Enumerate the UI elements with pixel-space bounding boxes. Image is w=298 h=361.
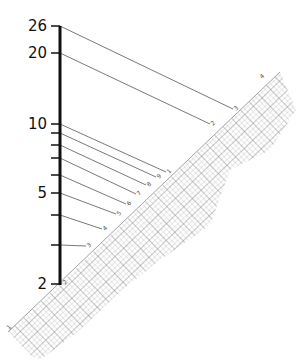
strip-label: 3 bbox=[85, 241, 93, 249]
connector-line bbox=[60, 124, 166, 172]
strip-label: 3 bbox=[232, 104, 240, 112]
vertical-log-axis: 26201052 bbox=[28, 17, 60, 293]
strip-label: 1 bbox=[165, 167, 173, 175]
strip-label: 2 bbox=[209, 119, 217, 127]
connector-line bbox=[60, 215, 102, 229]
axis-tick-label: 20 bbox=[28, 44, 47, 62]
connector-line bbox=[60, 53, 210, 124]
strip-label: 8 bbox=[145, 180, 153, 188]
connector-line bbox=[60, 245, 86, 246]
strip-label: 5 bbox=[115, 209, 123, 217]
connector-line bbox=[60, 133, 156, 177]
axis-tick-label: 5 bbox=[37, 184, 47, 202]
connector-line bbox=[60, 175, 126, 204]
log-graph-strip bbox=[8, 72, 296, 360]
nomogram-diagram: 26201052 3219876543241 bbox=[0, 0, 298, 361]
strip-label: 7 bbox=[135, 189, 143, 197]
strip-label: 4 bbox=[101, 224, 109, 232]
strip-edge bbox=[8, 72, 280, 332]
strip-label: 9 bbox=[155, 172, 163, 180]
strip-coarse-grid bbox=[8, 72, 296, 360]
axis-tick-label: 26 bbox=[28, 17, 47, 35]
axis-tick-label: 10 bbox=[28, 115, 47, 133]
connector-line bbox=[60, 26, 233, 109]
connector-line bbox=[60, 158, 136, 194]
strip-label: 4 bbox=[258, 72, 266, 80]
connector-line bbox=[60, 145, 146, 185]
axis-tick-label: 2 bbox=[37, 275, 47, 293]
strip-label: 6 bbox=[125, 199, 133, 207]
